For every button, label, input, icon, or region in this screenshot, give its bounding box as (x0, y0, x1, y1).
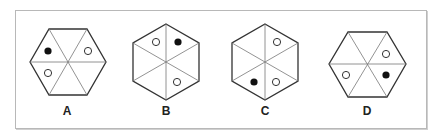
option-label-c: C (261, 104, 270, 118)
dot-white (342, 71, 349, 78)
hexagon-option-c[interactable] (232, 24, 298, 100)
dot-white (382, 50, 389, 57)
option-label-a: A (63, 104, 72, 118)
dot-white (272, 78, 279, 85)
hexagon-option-b[interactable] (133, 24, 199, 100)
dot-white (173, 78, 180, 85)
hexagon-figure (0, 0, 440, 140)
dot-black (44, 47, 51, 54)
dot-white (273, 38, 280, 45)
hexagon-option-d[interactable] (329, 32, 406, 97)
dot-white (84, 47, 91, 54)
dot-black (250, 78, 257, 85)
dot-black (174, 38, 181, 45)
option-label-b: B (162, 104, 171, 118)
dot-white (44, 69, 51, 76)
hexagon-option-a[interactable] (30, 29, 106, 95)
dot-white (152, 38, 159, 45)
dot-black (382, 71, 389, 78)
option-label-d: D (363, 104, 372, 118)
